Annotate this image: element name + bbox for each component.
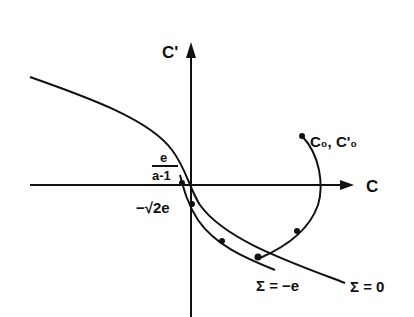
intercept-dot-c-axis	[179, 180, 185, 186]
fraction-numerator: e	[160, 150, 167, 165]
intercept-dot-c-prime-axis	[189, 201, 195, 207]
x-axis-label: C	[366, 177, 378, 196]
neg-sqrt-2e-label: −√2e	[136, 199, 170, 216]
trajectory-arc	[260, 136, 321, 258]
start-point-label: C₀, C'₀	[310, 133, 357, 150]
start-point-dot	[299, 133, 305, 139]
trajectory-arrow-dot	[294, 228, 300, 234]
inner-curve-arrow-dot	[219, 238, 225, 244]
sigma-neg-e-label: Σ = −e	[256, 277, 299, 294]
fraction-denominator: a-1	[152, 168, 171, 183]
phase-plane-diagram: C' C e a-1 −√2e C₀, C'₀ Σ = −e Σ = 0	[0, 0, 414, 317]
junction-dot	[255, 254, 262, 261]
sigma-zero-curve	[30, 77, 345, 283]
y-axis-label: C'	[162, 43, 178, 62]
sigma-zero-label: Σ = 0	[350, 278, 384, 295]
